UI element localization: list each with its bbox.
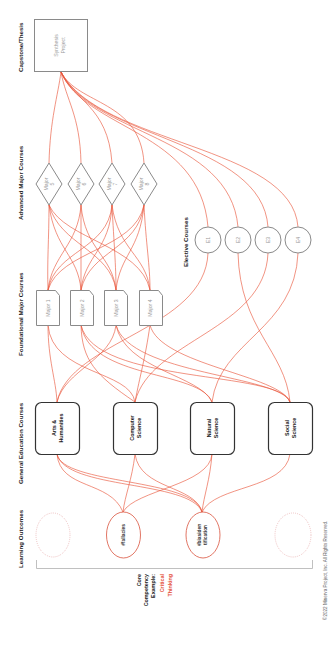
elective-nodes: E1 E2 E3 E4 [195,227,311,253]
gened-node-natural-science: Natural Science [191,403,235,455]
svg-text:Natural: Natural [206,418,212,437]
svg-text:#fallacies: #fallacies [121,524,126,546]
learning-outcome-nodes: #fallacies #biasiden tification [36,512,311,558]
svg-text:E4: E4 [295,237,301,243]
svg-text:Core: Core [136,574,142,586]
svg-text:Major 3: Major 3 [113,299,119,316]
header-elective: Elective Courses [182,217,189,267]
foundational-major-node: Major 1 [37,291,60,326]
svg-text:Thinking: Thinking [167,574,173,596]
capstone-label-line-1: Synthesis [53,34,59,57]
svg-text:Humanities: Humanities [58,413,64,442]
outcome-node-bias-identification: #biasiden tification [186,512,220,558]
svg-text:Major 1: Major 1 [45,299,51,316]
header-capstone: Capstone/Thesis [17,22,24,72]
curriculum-diagram: Capstone/Thesis Advanced Major Courses F… [0,0,331,656]
outcomes-bracket [37,560,313,569]
capstone-node: Synthesis Project [35,20,88,72]
header-advanced-major: Advanced Major Courses [17,145,24,220]
header-learning-outcomes: Learning Outcomes [17,509,24,568]
svg-text:8: 8 [144,182,150,185]
svg-text:Science: Science [136,418,142,438]
advanced-major-node: Major 6 [68,163,94,205]
svg-text:E2: E2 [235,237,241,243]
svg-text:Science: Science [213,418,219,438]
advanced-major-node: Major 7 [99,163,125,205]
copyright-notice: ©2022 Minerva Project, Inc. All Rights R… [322,521,328,620]
core-competency-label: Core Competency Example: Critical Thinki… [136,574,173,607]
foundational-major-node: Major 3 [105,291,128,326]
svg-text:E3: E3 [265,237,271,243]
svg-text:Computer: Computer [129,414,135,440]
svg-text:E1: E1 [205,237,211,243]
foundational-major-node: Major 4 [140,291,163,326]
gened-node-social-science: Social Science [269,403,313,455]
elective-node: E2 [225,227,251,253]
gened-node-computer-science: Computer Science [114,403,158,455]
svg-text:Major 2: Major 2 [79,299,85,316]
svg-text:Science: Science [291,418,297,438]
svg-text:#biasiden: #biasiden [197,524,202,546]
header-foundational-major: Foundational Major Courses [17,272,24,356]
svg-text:Major 4: Major 4 [147,299,153,316]
svg-text:7: 7 [112,182,118,185]
svg-text:Example:: Example: [150,574,156,598]
placeholder-outcome [275,513,311,557]
svg-text:tification: tification [203,525,208,545]
elective-node: E1 [195,227,221,253]
svg-text:Arts &: Arts & [51,420,57,436]
elective-node: E3 [255,227,281,253]
svg-text:6: 6 [81,182,87,185]
svg-text:Competency: Competency [143,574,149,606]
svg-text:Social: Social [284,420,290,436]
header-general-education: General Education Courses [17,402,24,484]
svg-text:Critical: Critical [159,574,165,593]
foundational-major-node: Major 2 [71,291,94,326]
advanced-major-nodes: Major 5 Major 6 Major 7 Major 8 [36,163,157,205]
outcome-node-fallacies: #fallacies [107,512,141,558]
svg-text:5: 5 [49,182,55,185]
capstone-label-line-2: Project [60,37,66,54]
advanced-major-node: Major 5 [36,163,62,205]
placeholder-outcome [36,513,70,557]
elective-node: E4 [285,227,311,253]
general-education-nodes: Arts & Humanities Computer Science Natur… [36,403,313,455]
foundational-major-nodes: Major 1 Major 2 Major 3 Major 4 [37,291,163,326]
gened-node-arts-humanities: Arts & Humanities [36,403,80,455]
advanced-major-node: Major 8 [131,163,157,205]
